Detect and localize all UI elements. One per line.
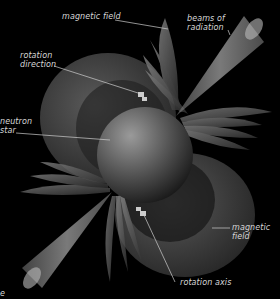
neutron-star-sphere	[97, 107, 193, 203]
label-rotation-axis: rotation axis	[180, 278, 231, 287]
pulsar-diagram: magnetic field beams of radiation rotati…	[0, 0, 280, 299]
label-magnetic-field-right: magnetic field	[232, 223, 270, 241]
field-lines-right	[180, 107, 272, 150]
pulsar-illustration	[0, 0, 280, 299]
label-neutron-star: neutron star	[0, 117, 32, 135]
label-magnetic-field-top: magnetic field	[62, 12, 121, 21]
label-corner-fragment: e	[0, 289, 5, 298]
label-beams-of-radiation: beams of radiation	[187, 14, 225, 32]
label-rotation-direction: rotation direction	[20, 51, 56, 69]
